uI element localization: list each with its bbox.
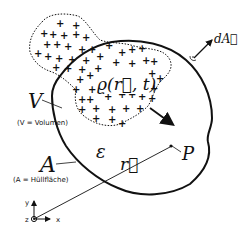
svg-text:+: + [148, 93, 156, 104]
charge-density-label: ϱ(r⃗, t) [97, 74, 156, 94]
volume-caption: (V = Volumen) [17, 119, 68, 127]
current-flow-arrow [150, 108, 172, 124]
area-element-label: dA⃗ [214, 32, 238, 46]
svg-text:+: + [118, 118, 126, 129]
svg-text:+: + [52, 62, 60, 73]
svg-text:+: + [96, 51, 104, 62]
svg-text:+: + [136, 103, 144, 114]
axis-z-label: z [25, 216, 29, 224]
svg-text:+: + [78, 44, 86, 55]
svg-text:+: + [64, 41, 72, 52]
axis-y-label: y [25, 199, 29, 207]
svg-text:+: + [53, 39, 61, 50]
svg-text:+: + [128, 58, 136, 69]
svg-text:+: + [78, 104, 86, 115]
svg-text:+: + [150, 56, 158, 67]
svg-text:+: + [64, 63, 72, 74]
surface-caption: (A = Hüllfläche) [13, 176, 69, 184]
permittivity-label: ε [96, 141, 106, 162]
svg-text:+: + [82, 32, 90, 43]
svg-text:+: + [86, 70, 94, 81]
svg-text:+: + [72, 29, 80, 40]
svg-text:+: + [43, 39, 51, 50]
svg-text:+: + [56, 18, 64, 29]
point-P-label: P [181, 143, 195, 164]
coordinate-axes-icon [31, 201, 50, 222]
svg-text:+: + [128, 44, 136, 55]
svg-text:+: + [92, 113, 100, 124]
svg-text:+: + [34, 48, 42, 59]
diagram-canvas: + + + + + + + + + + + + + + + + + + + + … [0, 0, 243, 235]
point-P-pointer-line [172, 146, 181, 152]
surface-label: A [38, 152, 56, 177]
svg-text:+: + [105, 40, 113, 51]
svg-text:+: + [138, 43, 146, 54]
svg-text:+: + [44, 51, 52, 62]
area-element-arrow [194, 40, 212, 58]
svg-text:+: + [122, 103, 130, 114]
right-angle-dot [192, 56, 194, 58]
position-vector-label: r⃗ [120, 154, 138, 174]
surface-pointer-line [56, 162, 76, 164]
volume-label: V [28, 89, 45, 113]
svg-text:+: + [40, 28, 48, 39]
axis-x-label: x [56, 216, 60, 224]
svg-text:+: + [112, 57, 120, 68]
diagram-svg: + + + + + + + + + + + + + + + + + + + + … [0, 0, 243, 235]
svg-text:+: + [108, 114, 116, 125]
